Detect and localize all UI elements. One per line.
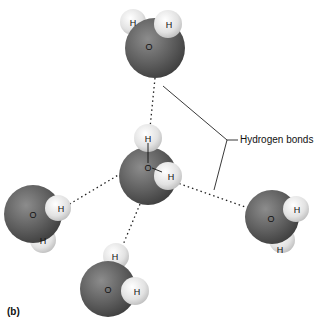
svg-text:H: H (130, 18, 137, 28)
svg-text:O: O (145, 42, 152, 52)
svg-text:H: H (168, 172, 175, 182)
water-molecule-top: H H O (120, 9, 185, 78)
svg-text:H: H (166, 20, 173, 30)
water-hydrogen-bond-diagram: H H O H O H O H H O H H H O H (0, 0, 324, 325)
water-molecule-left: O H H (4, 185, 71, 253)
svg-text:H: H (112, 252, 119, 262)
svg-text:H: H (294, 205, 301, 215)
svg-text:O: O (144, 163, 151, 173)
hydrogen-bonds-label: Hydrogen bonds (240, 134, 313, 145)
svg-text:H: H (277, 245, 284, 255)
svg-text:H: H (134, 287, 141, 297)
panel-label: (b) (7, 306, 20, 317)
water-molecule-center: H O H (119, 124, 182, 205)
svg-text:O: O (267, 214, 274, 224)
svg-text:H: H (40, 236, 47, 246)
water-molecule-right: O H H (245, 190, 309, 255)
svg-text:H: H (58, 204, 65, 214)
svg-text:H: H (145, 134, 152, 144)
svg-text:O: O (29, 210, 36, 220)
water-molecule-bottom: H O H (80, 243, 149, 317)
svg-text:O: O (104, 285, 111, 295)
